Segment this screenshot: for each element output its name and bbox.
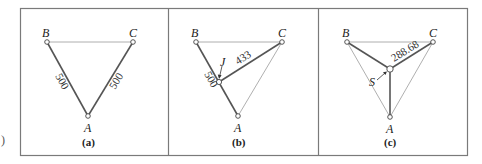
edge-label-c-a: 500 [106,70,125,91]
label-c: C [129,26,138,40]
node-s [387,66,393,72]
label-b: B [191,26,199,40]
node-b [45,40,50,45]
panel-c: B C A S 288.68 (c) [342,26,438,149]
node-c [280,40,285,45]
label-b: B [42,26,50,40]
node-a [236,114,241,119]
edge-j-c [219,42,282,82]
panel-b: B C A J 500 433 (b) [191,26,287,149]
node-b [345,40,350,45]
node-a [86,114,91,119]
label-c: C [429,26,438,40]
edge-label-b-a: 500 [53,71,72,92]
caption-a: (a) [82,136,95,149]
steiner-tree-figure: B C A 500 500 (a) B C A J 500 433 (b) [0,0,482,164]
edge-label-j-c: 433 [233,48,254,67]
pointer-arrow-s [377,73,385,80]
label-a: A [83,121,92,135]
edge-label-b-a: 500 [202,69,221,90]
edge-s-b [347,42,390,69]
label-b: B [342,26,350,40]
label-s: S [369,75,375,89]
node-c [131,40,136,45]
caption-c: (c) [384,136,397,149]
caption-b: (b) [232,136,246,149]
label-a: A [385,122,394,136]
node-c [431,40,436,45]
node-b [194,40,199,45]
label-a: A [233,121,242,135]
label-c: C [278,26,287,40]
panel-a: B C A 500 500 (a) [42,26,138,149]
node-a [388,115,393,120]
label-j: J [220,55,226,69]
